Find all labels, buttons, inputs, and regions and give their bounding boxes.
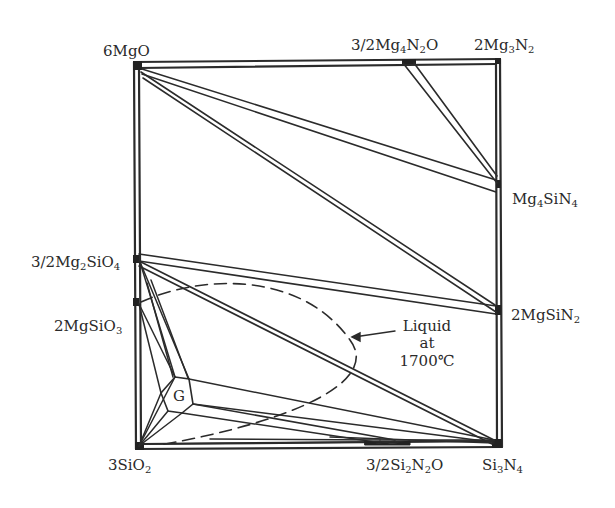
liquid-annotation: Liquid at 1700℃	[398, 318, 456, 370]
label-sio2: 3SiO2	[108, 458, 151, 475]
phase-diagram: 6MgO 3/2Mg4N2O 2Mg3N2 Mg4SiN4 3/2Mg2SiO4…	[0, 0, 615, 508]
tie-lines-mgo	[141, 69, 496, 312]
liquid-label-line2: at	[398, 335, 456, 352]
label-mgsin2: 2MgSiN2	[511, 308, 580, 325]
liquid-label-line1: Liquid	[398, 318, 456, 335]
corner-nodes	[133, 58, 502, 450]
label-mg3n2: 2Mg3N2	[474, 38, 534, 55]
label-mg4sin4: Mg4SiN4	[512, 192, 578, 209]
label-mgsio3: 2MgSiO3	[54, 319, 122, 336]
label-mg4n2o: 3/2Mg4N2O	[351, 38, 438, 55]
frame	[134, 59, 502, 449]
label-6mgo: 6MgO	[103, 44, 150, 59]
liquid-arrow	[352, 331, 395, 341]
label-mg2sio4: 3/2Mg2SiO4	[31, 255, 120, 272]
label-si2n2o: 3/2Si2N2O	[366, 458, 443, 475]
liquid-label-line3: 1700℃	[398, 353, 456, 370]
label-si3n4: Si3N4	[482, 458, 523, 475]
tie-lines-mg2sio4-mgsin2	[139, 254, 496, 314]
label-glass-g: G	[173, 389, 185, 404]
